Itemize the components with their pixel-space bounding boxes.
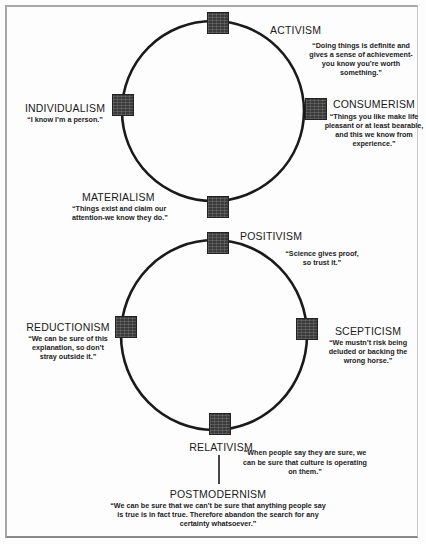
positivism-quote: “Science gives proof, so trust it.” bbox=[282, 249, 362, 267]
postmodernism-term: POSTMODERNISM bbox=[110, 488, 326, 500]
relativism-quote: “When people say they are sure, we can b… bbox=[240, 448, 370, 477]
materialism-term: MATERIALISM bbox=[62, 191, 182, 203]
individualism-node-icon bbox=[112, 94, 134, 116]
scepticism-label: SCEPTICISM “We mustn’t risk being delude… bbox=[318, 325, 418, 365]
individualism-term: INDIVIDUALISM bbox=[20, 102, 110, 114]
positivism-quote-block: “Science gives proof, so trust it.” bbox=[282, 249, 362, 267]
positivism-label: POSITIVISM bbox=[240, 230, 320, 242]
activism-term: ACTIVISM bbox=[270, 24, 330, 36]
top-cycle-circle bbox=[122, 21, 304, 201]
materialism-quote: “Things exist and claim our attention-we… bbox=[62, 204, 182, 222]
activism-quote-block: “Doing things is definite and gives a se… bbox=[305, 41, 417, 77]
positivism-node-icon bbox=[207, 232, 229, 254]
activism-label: ACTIVISM bbox=[270, 24, 330, 36]
reductionism-label: REDUCTIONISM “We can be sure of this exp… bbox=[20, 321, 116, 361]
postmodernism-quote: “We can be sure that we can’t be sure th… bbox=[110, 501, 326, 528]
materialism-label: MATERIALISM “Things exist and claim our … bbox=[62, 191, 182, 222]
bottom-cycle-circle bbox=[121, 240, 307, 430]
consumerism-term: CONSUMERISM bbox=[324, 98, 424, 110]
consumerism-label: CONSUMERISM “Things you like make life p… bbox=[324, 98, 424, 148]
scepticism-term: SCEPTICISM bbox=[318, 325, 418, 337]
diagram-page: ACTIVISM “Doing things is definite and g… bbox=[0, 0, 426, 544]
relativism-node-icon bbox=[209, 413, 231, 435]
relativism-quote-block: “When people say they are sure, we can b… bbox=[240, 448, 370, 477]
reductionism-quote: “We can be sure of this explanation, so … bbox=[20, 334, 116, 361]
reductionism-term: REDUCTIONISM bbox=[20, 321, 116, 333]
consumerism-quote: “Things you like make life pleasant or a… bbox=[324, 112, 424, 148]
activism-quote: “Doing things is definite and gives a se… bbox=[305, 41, 417, 77]
individualism-label: INDIVIDUALISM “I know I’m a person.” bbox=[20, 102, 110, 124]
activism-node-icon bbox=[207, 12, 229, 34]
postmodernism-label: POSTMODERNISM “We can be sure that we ca… bbox=[110, 488, 326, 528]
individualism-quote: “I know I’m a person.” bbox=[20, 115, 110, 124]
scepticism-node-icon bbox=[296, 318, 318, 340]
reductionism-node-icon bbox=[115, 316, 137, 338]
materialism-node-icon bbox=[207, 196, 229, 218]
positivism-term: POSITIVISM bbox=[240, 230, 320, 242]
scepticism-quote: “We mustn’t risk being deluded or backin… bbox=[318, 338, 418, 365]
